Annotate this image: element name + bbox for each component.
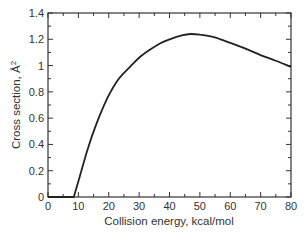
- y-tick-label: 0.2: [29, 165, 44, 177]
- x-tick-label: 50: [194, 200, 206, 212]
- x-tick-label: 60: [224, 200, 236, 212]
- y-tick-label: 0: [38, 191, 44, 203]
- axes-box: [48, 13, 291, 197]
- x-tick-label: 40: [163, 200, 175, 212]
- y-axis-title: Cross section, Å2: [9, 60, 22, 149]
- x-axis-ticks: 01020304050607080: [45, 13, 297, 212]
- x-tick-label: 70: [255, 200, 267, 212]
- y-axis-ticks: 00.20.40.60.811.21.4: [29, 7, 291, 203]
- x-tick-label: 30: [133, 200, 145, 212]
- y-tick-label: 0.6: [29, 112, 44, 124]
- x-tick-label: 80: [285, 200, 297, 212]
- y-tick-label: 1.2: [29, 33, 44, 45]
- y-tick-label: 1: [38, 60, 44, 72]
- x-axis-title: Collision energy, kcal/mol: [104, 215, 234, 227]
- cross-section-curve: [48, 34, 291, 197]
- y-tick-label: 1.4: [29, 7, 44, 19]
- x-tick-label: 20: [103, 200, 115, 212]
- x-tick-label: 0: [45, 200, 51, 212]
- x-tick-label: 10: [72, 200, 84, 212]
- y-tick-label: 0.4: [29, 138, 44, 150]
- y-tick-label: 0.8: [29, 86, 44, 98]
- cross-section-chart: 01020304050607080 00.20.40.60.811.21.4 C…: [0, 0, 308, 237]
- plot-frame: [48, 13, 291, 197]
- data-series: [48, 34, 291, 197]
